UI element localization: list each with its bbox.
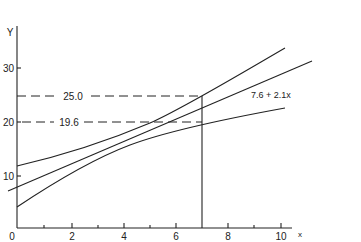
x-ticks: [44, 223, 281, 228]
x-tick-2: 2: [69, 231, 75, 242]
x-tick-8: 8: [225, 231, 231, 242]
x-tick-6: 6: [173, 231, 179, 242]
y-tick-20: 20: [3, 117, 15, 128]
ref-label-25: 25.0: [63, 91, 83, 102]
y-tick-30: 30: [3, 63, 15, 74]
y-ticks: [17, 68, 21, 176]
x-tick-4: 4: [121, 231, 127, 242]
upper-band: [17, 48, 285, 166]
fitted-line: [8, 61, 312, 191]
equation-label: 7.6 + 2.1x: [251, 90, 291, 100]
x-tick-0: 0: [9, 231, 15, 242]
x-axis-label: x: [298, 230, 302, 239]
y-tick-10: 10: [3, 171, 15, 182]
x-tick-10: 10: [275, 231, 287, 242]
regression-chart: 0 2 4 6 8 10 x 30 20 10 Y 25.0 19.6 7.6 …: [0, 0, 361, 242]
ref-label-19-6: 19.6: [59, 117, 79, 128]
y-axis-label: Y: [7, 27, 14, 38]
